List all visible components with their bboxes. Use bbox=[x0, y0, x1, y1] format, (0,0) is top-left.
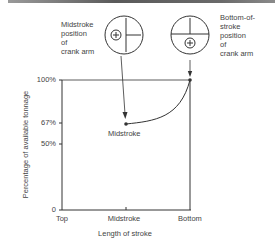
bottom-position-label: Bottom-of- stroke position of crank arm bbox=[220, 13, 255, 58]
midstroke-point-label: Midstroke bbox=[108, 129, 141, 138]
arrow-to-bottom bbox=[188, 60, 192, 77]
arrow-to-midstroke bbox=[121, 56, 128, 119]
xtick-bottom: Bottom bbox=[165, 214, 215, 223]
ytick-50: 50% bbox=[26, 139, 56, 148]
axes bbox=[59, 80, 191, 210]
xtick-midstroke: Midstroke bbox=[99, 214, 149, 223]
ytick-100: 100% bbox=[26, 75, 56, 84]
crank-bottom-icon bbox=[171, 16, 209, 54]
y-axis-label: Percentage of available tonnage bbox=[21, 80, 30, 210]
x-axis-label: Length of stroke bbox=[85, 229, 165, 238]
xtick-top: Top bbox=[37, 214, 87, 223]
tonnage-curve bbox=[124, 78, 192, 126]
crank-midstroke-icon bbox=[105, 16, 143, 54]
ytick-0: 0 bbox=[26, 205, 56, 214]
midstroke-position-label: Midstroke position of crank arm bbox=[61, 20, 94, 56]
ytick-67: 67% bbox=[26, 118, 56, 127]
